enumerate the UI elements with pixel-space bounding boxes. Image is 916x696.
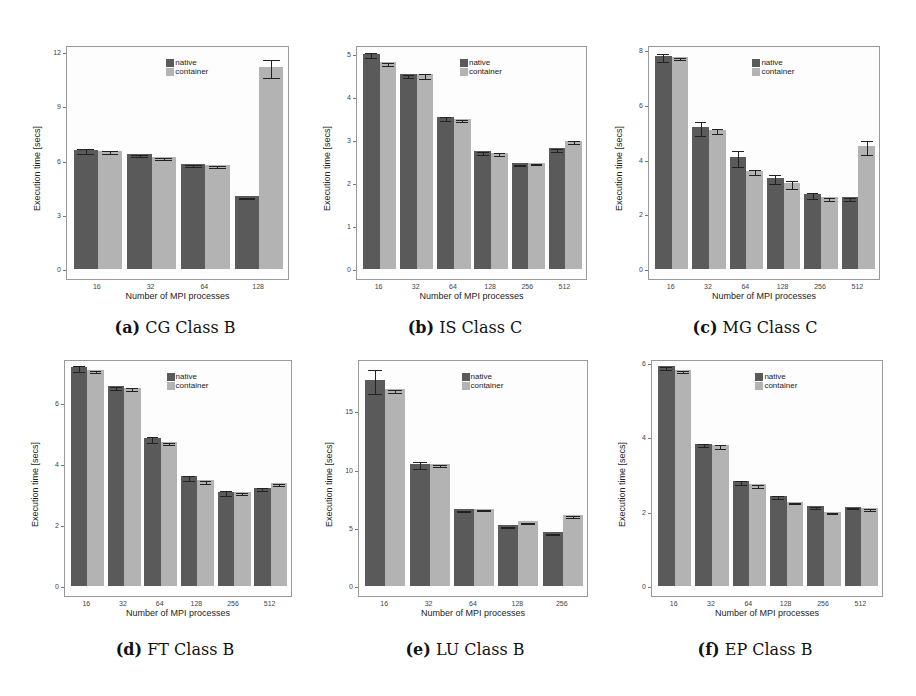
y-tick-label: 4 bbox=[623, 157, 643, 164]
error-bar-cap bbox=[732, 151, 744, 152]
x-tick-label: 32 bbox=[108, 600, 138, 607]
error-bar-cap bbox=[752, 485, 764, 486]
error-bar-cap bbox=[403, 75, 415, 76]
error-bar-cap bbox=[786, 181, 798, 182]
container-bar bbox=[491, 153, 508, 269]
error-bar-cap bbox=[810, 509, 822, 510]
error-bar-cap bbox=[183, 476, 195, 477]
error-bar-cap bbox=[494, 156, 506, 157]
error-bar-cap bbox=[677, 373, 689, 374]
error-bar-cap bbox=[735, 481, 747, 482]
y-tick-label: 8 bbox=[623, 47, 643, 54]
container-bar bbox=[161, 442, 178, 586]
native-bar bbox=[365, 380, 385, 586]
x-tick-label: 256 bbox=[805, 283, 835, 290]
error-bar-cap bbox=[200, 484, 212, 485]
error-bar-cap bbox=[477, 155, 489, 156]
container-bar bbox=[454, 119, 471, 269]
y-tick-label: 0 bbox=[331, 266, 351, 273]
legend-label-container: container bbox=[764, 381, 797, 390]
error-bar bbox=[375, 370, 376, 393]
x-axis-label: Number of MPI processes bbox=[651, 608, 883, 618]
y-tick-mark bbox=[61, 404, 64, 405]
x-axis-label: Number of MPI processes bbox=[648, 291, 880, 301]
x-tick-label: 256 bbox=[218, 600, 248, 607]
y-tick-mark bbox=[353, 141, 356, 142]
error-bar-cap bbox=[368, 370, 382, 371]
container-bar bbox=[474, 509, 494, 586]
figure-caption: (f) EP Class B bbox=[620, 640, 890, 659]
error-bar-cap bbox=[749, 170, 761, 171]
y-axis-label: Execution time [secs] bbox=[32, 126, 42, 211]
y-tick-mark bbox=[353, 227, 356, 228]
container-bar bbox=[380, 62, 397, 269]
error-bar bbox=[792, 181, 793, 189]
x-tick-label: 16 bbox=[71, 600, 101, 607]
error-bar-cap bbox=[769, 175, 781, 176]
caption-tag: (c) bbox=[693, 318, 718, 337]
container-bar bbox=[98, 151, 122, 269]
error-bar-cap bbox=[695, 122, 707, 123]
native-bar bbox=[692, 127, 709, 269]
error-bar-cap bbox=[807, 199, 819, 200]
error-bar-cap bbox=[698, 444, 710, 445]
error-bar-cap bbox=[73, 372, 85, 373]
error-bar-cap bbox=[715, 445, 727, 446]
native-bar bbox=[842, 197, 859, 269]
error-bar-cap bbox=[220, 496, 232, 497]
plot-area bbox=[64, 360, 292, 597]
y-tick-label: 6 bbox=[623, 102, 643, 109]
y-tick-label: 15 bbox=[333, 408, 353, 415]
y-tick-label: 9 bbox=[41, 103, 61, 110]
x-tick-label: 32 bbox=[136, 283, 166, 290]
error-bar-cap bbox=[419, 74, 431, 75]
y-tick-label: 0 bbox=[333, 583, 353, 590]
error-bar-cap bbox=[566, 518, 580, 519]
container-bar bbox=[675, 370, 692, 586]
native-bar bbox=[254, 488, 271, 586]
legend-swatch-native bbox=[752, 59, 760, 67]
legend: nativecontainer bbox=[167, 372, 209, 390]
legend-swatch-container bbox=[755, 382, 763, 390]
y-tick-mark bbox=[648, 438, 651, 439]
y-tick-mark bbox=[645, 106, 648, 107]
error-bar bbox=[420, 462, 421, 469]
native-bar bbox=[410, 464, 430, 586]
native-bar bbox=[363, 54, 380, 269]
error-bar-cap bbox=[102, 154, 119, 155]
error-bar-cap bbox=[110, 390, 122, 391]
error-bar-cap bbox=[677, 371, 689, 372]
legend-swatch-container bbox=[460, 68, 468, 76]
error-bar-cap bbox=[514, 166, 526, 167]
error-bar-cap bbox=[131, 157, 148, 158]
native-bar bbox=[454, 509, 474, 586]
x-tick-label: 64 bbox=[145, 600, 175, 607]
native-bar bbox=[845, 507, 862, 586]
legend-label-container: container bbox=[761, 67, 794, 76]
container-bar bbox=[749, 484, 766, 586]
error-bar-cap bbox=[382, 66, 394, 67]
legend-label-native: native bbox=[764, 372, 785, 381]
figure-caption: (c) MG Class C bbox=[620, 318, 890, 337]
y-tick-label: 3 bbox=[41, 212, 61, 219]
y-tick-label: 2 bbox=[626, 509, 646, 516]
y-axis-label: Execution time [secs] bbox=[324, 441, 334, 526]
legend-item-native: native bbox=[752, 58, 794, 67]
y-tick-mark bbox=[63, 53, 66, 54]
legend: nativecontainer bbox=[755, 372, 797, 390]
native-bar bbox=[733, 481, 750, 586]
x-axis-label: Number of MPI processes bbox=[64, 608, 292, 618]
error-bar-cap bbox=[864, 511, 876, 512]
y-tick-label: 6 bbox=[39, 400, 59, 407]
y-tick-label: 4 bbox=[626, 434, 646, 441]
error-bar bbox=[738, 151, 739, 166]
x-tick-label: 512 bbox=[842, 283, 872, 290]
error-bar-cap bbox=[551, 152, 563, 153]
y-tick-label: 6 bbox=[626, 360, 646, 367]
container-bar bbox=[672, 57, 689, 269]
container-bar bbox=[824, 512, 841, 586]
container-bar bbox=[430, 464, 450, 586]
error-bar-cap bbox=[861, 141, 873, 142]
y-tick-label: 0 bbox=[39, 583, 59, 590]
container-bar bbox=[87, 370, 104, 586]
